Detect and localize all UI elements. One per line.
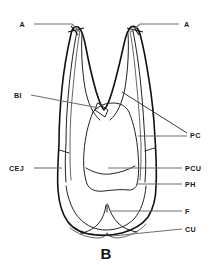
label-apex-left: A bbox=[19, 20, 25, 29]
label-pulp-chamber-upper: PCU bbox=[185, 164, 201, 173]
label-bifurcation: BI bbox=[14, 91, 22, 100]
label-cusp: CU bbox=[185, 225, 196, 234]
label-apex-right: A bbox=[184, 20, 190, 29]
figure-caption: B bbox=[101, 245, 112, 262]
label-cej: CEJ bbox=[9, 164, 24, 173]
tooth-anatomy-figure: A A BI CEJ PC PCU PH F CU B bbox=[0, 0, 213, 265]
label-pulp-canal: PC bbox=[190, 131, 201, 140]
label-pulp-horn: PH bbox=[185, 180, 196, 189]
tooth-diagram-svg: A A BI CEJ PC PCU PH F CU B bbox=[0, 0, 213, 265]
label-fissure: F bbox=[185, 207, 190, 216]
